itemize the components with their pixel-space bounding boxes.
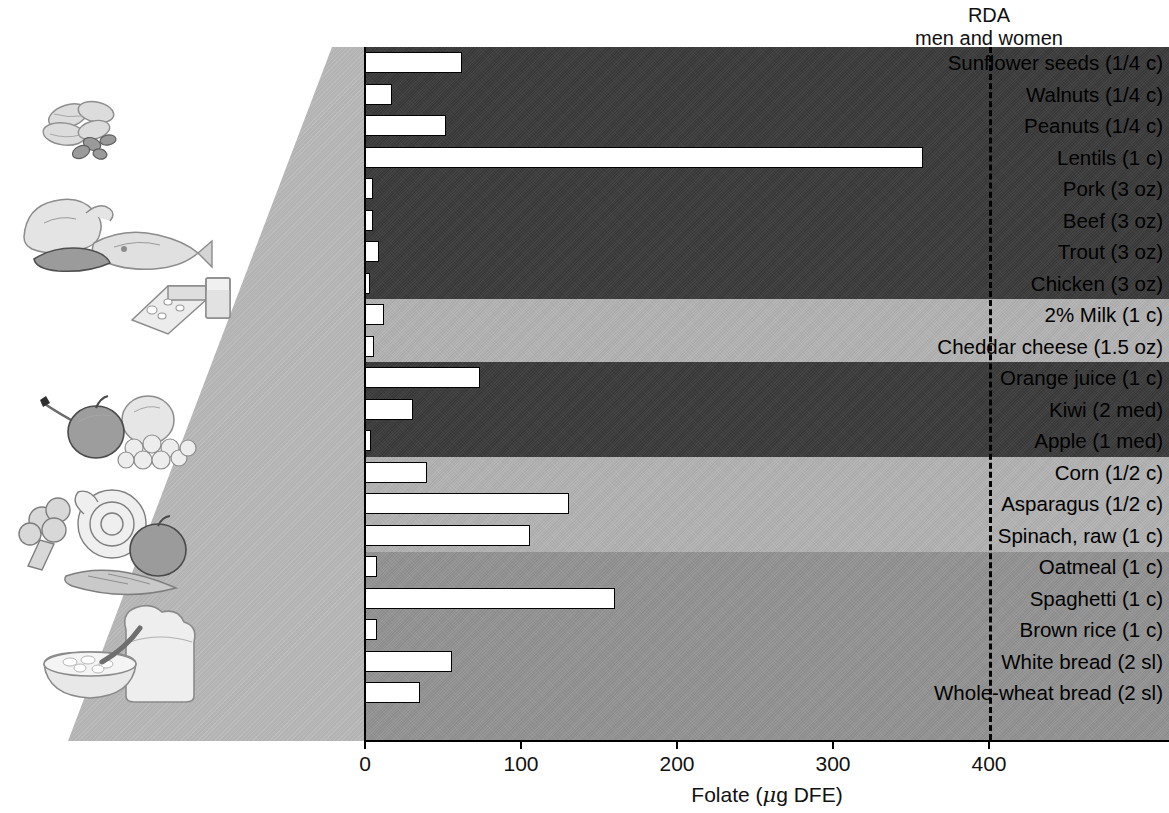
rda-label-line2: men and women (915, 27, 1063, 50)
bar (365, 619, 377, 640)
category-label: Kiwi (2 med) (809, 399, 1169, 420)
category-label: Cheddar cheese (1.5 oz) (809, 336, 1169, 357)
bar (365, 651, 452, 672)
bar (365, 210, 373, 231)
rda-label: RDA men and women (915, 4, 1063, 50)
x-axis-title: Folate (μg DFE) (365, 783, 1169, 807)
band-grains (365, 552, 1169, 740)
bar (365, 493, 569, 514)
bar (365, 178, 373, 199)
bar (365, 304, 384, 325)
bar (365, 588, 615, 609)
category-label: Whole-wheat bread (2 sl) (809, 682, 1169, 703)
category-label: Beef (3 oz) (809, 210, 1169, 231)
bar (365, 52, 462, 73)
dairy-illustration (124, 272, 236, 336)
bar (365, 525, 530, 546)
nuts-illustration (34, 100, 164, 162)
bar (365, 115, 446, 136)
x-axis-tick-label: 300 (815, 752, 850, 776)
x-axis-tick (676, 740, 678, 749)
bar (365, 682, 420, 703)
category-label: Corn (1/2 c) (809, 462, 1169, 483)
category-label: Spinach, raw (1 c) (809, 525, 1169, 546)
vegetables-illustration (12, 484, 227, 596)
x-axis-tick (988, 740, 990, 749)
category-label: Oatmeal (1 c) (809, 556, 1169, 577)
bar (365, 241, 379, 262)
bar (365, 399, 413, 420)
folate-food-sources-figure: RDA men and women Folate (μg DFE) Sunflo… (0, 0, 1169, 813)
x-axis-tick-label: 100 (503, 752, 538, 776)
x-axis-tick-label: 400 (971, 752, 1006, 776)
category-label: Orange juice (1 c) (809, 367, 1169, 388)
category-label: Trout (3 oz) (809, 241, 1169, 262)
rda-label-line1: RDA (915, 4, 1063, 27)
x-axis-title-prefix: Folate ( (691, 783, 762, 806)
bar (365, 84, 392, 105)
bar (365, 462, 427, 483)
category-label: 2% Milk (1 c) (809, 304, 1169, 325)
category-label: Lentils (1 c) (809, 147, 1169, 168)
x-axis-tick (364, 740, 366, 749)
category-label: White bread (2 sl) (809, 651, 1169, 672)
x-axis-tick-label: 200 (659, 752, 694, 776)
category-label: Pork (3 oz) (809, 178, 1169, 199)
x-axis-line (365, 740, 1169, 742)
bar (365, 336, 374, 357)
category-label: Apple (1 med) (809, 430, 1169, 451)
category-label: Peanuts (1/4 c) (809, 115, 1169, 136)
meats-illustration (4, 183, 214, 275)
category-label: Sunflower seeds (1/4 c) (809, 52, 1169, 73)
category-label: Spaghetti (1 c) (809, 588, 1169, 609)
x-axis-tick (832, 740, 834, 749)
x-axis-title-suffix: g DFE) (776, 783, 843, 806)
y-axis-line (364, 47, 366, 742)
x-axis-tick (520, 740, 522, 749)
micro-symbol: μ (763, 783, 777, 807)
bar (365, 367, 480, 388)
category-label: Walnuts (1/4 c) (809, 84, 1169, 105)
bar (365, 556, 377, 577)
category-label: Asparagus (1/2 c) (809, 493, 1169, 514)
fruits-illustration (22, 392, 212, 478)
x-axis-tick-label: 0 (359, 752, 371, 776)
category-label: Brown rice (1 c) (809, 619, 1169, 640)
grains-illustration (26, 602, 222, 710)
category-label: Chicken (3 oz) (809, 273, 1169, 294)
